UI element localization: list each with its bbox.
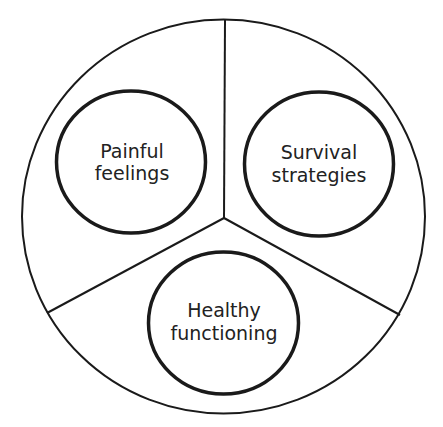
label-strategies: strategies bbox=[272, 164, 367, 186]
label-healthy: Healthy bbox=[187, 299, 261, 321]
segment-painful-feelings: Painful feelings bbox=[57, 91, 206, 233]
label-survival: Survival bbox=[281, 141, 358, 163]
segment-healthy-functioning: Healthy functioning bbox=[149, 252, 299, 394]
segment-survival-strategies: Survival strategies bbox=[245, 92, 394, 236]
label-feelings: feelings bbox=[95, 162, 170, 184]
three-part-circle-diagram: Painful feelings Survival strategies Hea… bbox=[0, 0, 443, 427]
divider-top bbox=[224, 20, 225, 218]
label-painful: Painful bbox=[100, 140, 164, 162]
label-functioning: functioning bbox=[171, 322, 278, 344]
